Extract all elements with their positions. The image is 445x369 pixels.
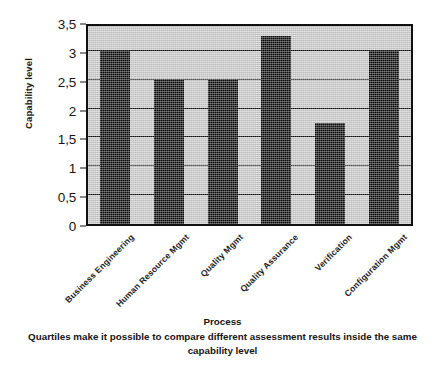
x-category-label-text: Configuration Mgmt <box>342 232 409 299</box>
bar[interactable] <box>154 80 184 224</box>
x-category-label-text: Verification <box>313 232 354 273</box>
x-axis-category-labels: Business EngineeringHuman Resource MgmtQ… <box>86 226 413 321</box>
bar[interactable] <box>315 123 345 224</box>
bar[interactable] <box>208 80 238 224</box>
caption-line-1: Quartiles make it possible to compare di… <box>8 330 437 344</box>
x-category-label-4: Verification <box>313 232 354 273</box>
bar[interactable] <box>369 51 399 224</box>
y-axis-tick-marks <box>0 0 86 250</box>
caption-line-2: capability level <box>8 344 437 358</box>
bar-slot-1 <box>142 26 196 224</box>
plot-area <box>86 24 413 226</box>
x-category-label-2: Quality Mgmt <box>198 232 245 279</box>
chart-figure: Capability level 00,511,522,533,5 Busine… <box>0 0 445 369</box>
x-category-label-3: Quality Assurance <box>238 232 300 294</box>
x-axis-title: Process <box>0 316 445 327</box>
x-category-label-text: Quality Assurance <box>238 232 300 294</box>
x-category-label-text: Quality Mgmt <box>198 232 245 279</box>
bar[interactable] <box>261 36 291 224</box>
bar-slot-0 <box>88 26 142 224</box>
bar-slot-5 <box>357 26 411 224</box>
figure-caption: Quartiles make it possible to compare di… <box>8 330 437 358</box>
bar-slot-2 <box>196 26 250 224</box>
bar[interactable] <box>100 51 130 224</box>
x-category-label-5: Configuration Mgmt <box>342 232 409 299</box>
bar-series <box>88 26 411 224</box>
bar-slot-3 <box>249 26 303 224</box>
bar-slot-4 <box>303 26 357 224</box>
